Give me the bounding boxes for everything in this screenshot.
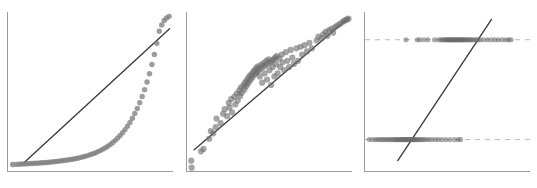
data-point: [458, 137, 463, 142]
data-point: [142, 87, 147, 92]
data-point: [206, 136, 212, 142]
panel-3-reference-lines: [365, 40, 531, 140]
data-point: [448, 137, 453, 142]
data-point: [188, 165, 194, 171]
data-point: [508, 37, 513, 42]
data-point: [135, 106, 140, 111]
data-point: [188, 158, 194, 164]
data-point: [403, 37, 408, 42]
data-point: [229, 109, 235, 115]
data-point: [137, 100, 142, 105]
data-point: [144, 79, 149, 84]
panel-2-observed-vs-fitted-scatter: [179, 0, 359, 188]
panel-1-points: [10, 14, 172, 168]
data-point: [288, 47, 294, 53]
data-point: [268, 82, 274, 88]
panel-1-axes: [8, 12, 174, 172]
data-point: [130, 116, 135, 121]
panel-3-axes: [365, 12, 531, 172]
panel-2-canvas: [179, 0, 359, 188]
panel-1-reference-line: [22, 29, 170, 165]
data-point: [166, 14, 171, 19]
data-point: [218, 120, 224, 126]
data-point: [425, 37, 430, 42]
identity-line: [22, 29, 170, 165]
panel-1-canvas: [0, 0, 180, 188]
data-point: [139, 94, 144, 99]
data-point: [210, 130, 216, 136]
data-point: [154, 41, 159, 46]
panel-3-canvas: [357, 0, 537, 188]
data-point: [330, 30, 336, 36]
data-point: [264, 76, 270, 82]
data-point: [157, 29, 162, 34]
data-point: [200, 146, 206, 152]
data-point: [275, 70, 281, 76]
data-point: [309, 45, 315, 51]
data-point: [152, 52, 157, 57]
data-point: [345, 16, 351, 22]
panel-1-spines: [8, 12, 174, 172]
three-panel-diagnostic-figure: [0, 0, 537, 188]
panel-3-binary-outcome-scatter: [357, 0, 537, 188]
panel-1-qq-scatter: [0, 0, 180, 188]
data-point: [132, 111, 137, 116]
data-point: [324, 33, 330, 39]
data-point: [147, 71, 152, 76]
panel-3-spines: [365, 12, 531, 172]
data-point: [213, 115, 219, 121]
data-point: [306, 40, 312, 46]
data-point: [213, 124, 219, 130]
data-point: [224, 113, 230, 119]
data-point: [289, 55, 295, 61]
data-point: [295, 58, 301, 64]
data-point: [149, 62, 154, 67]
panel-3-points: [367, 37, 514, 142]
panel-2-points: [188, 16, 351, 171]
